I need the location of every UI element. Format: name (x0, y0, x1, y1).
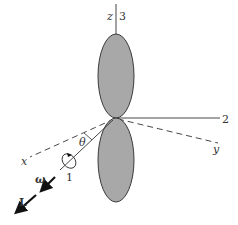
theta-label: θ (79, 136, 86, 149)
omega-label: ω (35, 173, 46, 186)
angular-momentum-label: L (19, 196, 27, 209)
omega-arrow-icon (44, 177, 55, 188)
axis-3-label: 3 (119, 10, 126, 23)
rotor-diagram: z 3 2 y x 1 θ ω L (0, 0, 238, 225)
z-axis-label: z (106, 10, 113, 23)
x-axis-label: x (21, 155, 28, 168)
axis-1-label: 1 (66, 171, 73, 184)
upper-lobe (98, 34, 134, 118)
lower-lobe (98, 118, 134, 202)
y-axis-dashed (118, 119, 218, 143)
y-axis-label: y (212, 143, 220, 156)
rotation-arrow-icon (67, 153, 72, 157)
axis-2-label: 2 (222, 113, 229, 126)
